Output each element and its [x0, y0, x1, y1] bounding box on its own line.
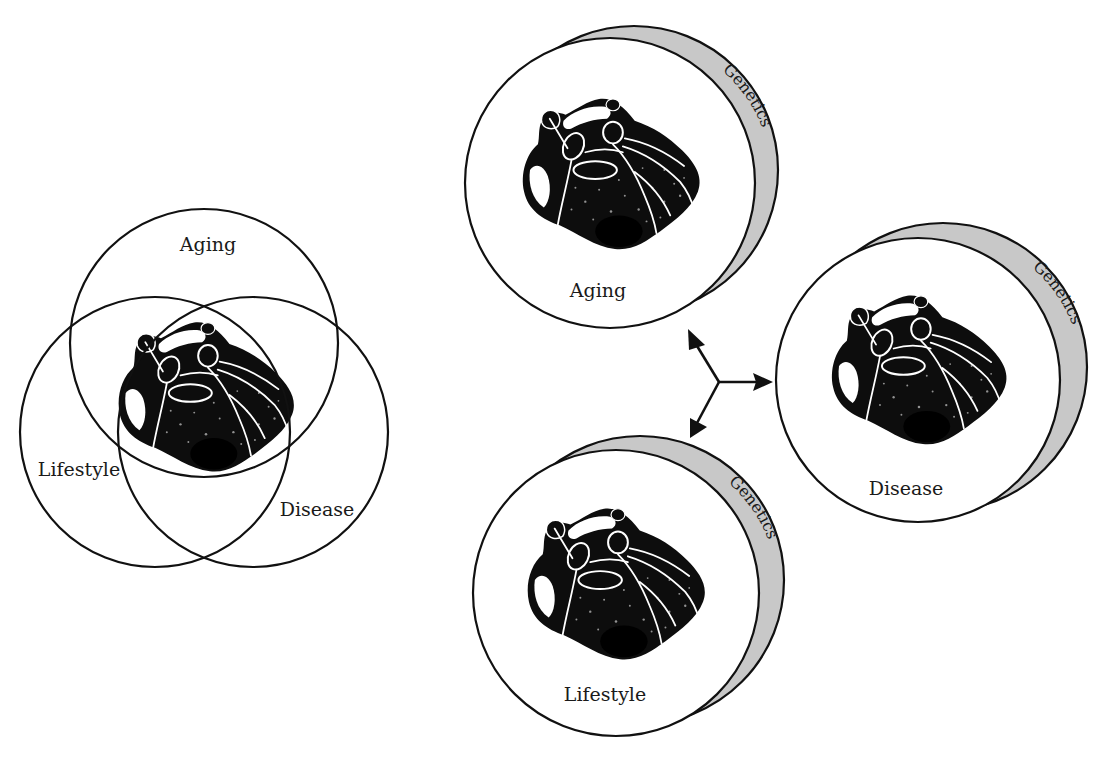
- venn-label-lifestyle: Lifestyle: [38, 458, 120, 480]
- circle-group-lifestyle: Genetics Lifestyle: [473, 436, 784, 736]
- circle-label-aging: Aging: [569, 279, 626, 301]
- venn-label-disease: Disease: [280, 498, 355, 520]
- arrowhead-up-left-icon: [688, 329, 705, 350]
- circle-group-aging: Genetics Aging: [465, 26, 778, 328]
- venn-diagram: Aging Lifestyle Disease: [20, 209, 388, 567]
- arrowhead-right-icon: [753, 373, 773, 391]
- venn-label-aging: Aging: [179, 233, 236, 255]
- arrow-to-lifestyle: [697, 382, 719, 423]
- heart-illustration-venn: [119, 322, 294, 471]
- circle-label-disease: Disease: [869, 477, 944, 499]
- diagram-canvas: Aging Lifestyle Disease Genetics Aging G…: [0, 0, 1108, 762]
- circle-group-disease: Genetics Disease: [776, 223, 1087, 522]
- circle-label-lifestyle: Lifestyle: [564, 683, 646, 705]
- arrow-group: [688, 329, 773, 438]
